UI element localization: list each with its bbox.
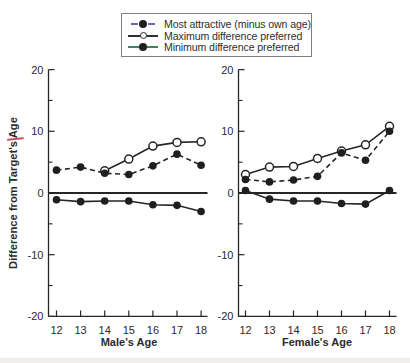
legend-label: Maximum difference preferred xyxy=(164,30,302,42)
dashed-line-filled-circle-swatch xyxy=(128,20,158,29)
dash-segment xyxy=(131,23,138,25)
female-age-panel: 20100-10-2012131415161718 xyxy=(218,64,397,336)
filled-circle-point xyxy=(101,169,109,177)
solid-line-filled-circle-swatch xyxy=(128,43,158,52)
y-tick-label: -20 xyxy=(28,310,44,322)
legend-label: Minimum difference preferred xyxy=(164,41,299,53)
filled-circle-point xyxy=(242,187,250,195)
y-tick-label: -20 xyxy=(218,310,234,322)
filled-circle-point xyxy=(125,197,133,205)
filled-circle-point xyxy=(77,198,85,206)
x-tick-label: 12 xyxy=(239,324,251,336)
x-tick-label: 13 xyxy=(74,324,86,336)
filled-circle-marker xyxy=(139,43,147,51)
filled-circle-point xyxy=(290,197,298,205)
x-tick-label: 18 xyxy=(383,324,395,336)
filled-circle-point xyxy=(314,173,322,181)
filled-circle-point xyxy=(197,208,205,216)
filled-circle-point xyxy=(314,197,322,205)
filled-circle-point xyxy=(266,178,274,186)
scan-artifact-band xyxy=(0,358,410,363)
open-circle-point xyxy=(125,155,133,163)
legend-label: Most attractive (minus own age) xyxy=(164,18,311,30)
open-circle-point xyxy=(314,154,322,162)
filled-circle-point xyxy=(53,196,61,204)
y-tick-label: -10 xyxy=(218,249,234,261)
x-tick-label: 18 xyxy=(195,324,207,336)
x-tick-label: 15 xyxy=(123,324,135,336)
y-tick-label: -10 xyxy=(28,249,44,261)
filled-circle-point xyxy=(149,201,157,209)
filled-circle-point xyxy=(53,166,61,174)
y-tick-label: 10 xyxy=(31,125,43,137)
filled-circle-point xyxy=(101,197,109,205)
open-circle-point xyxy=(173,138,181,146)
solid-line-open-circle-swatch xyxy=(128,31,158,40)
age-preference-figure: 20100-10-201213141516171820100-10-201213… xyxy=(0,0,410,363)
open-circle-point xyxy=(266,163,274,171)
open-circle-point xyxy=(149,142,157,150)
y-tick-label: 0 xyxy=(227,187,233,199)
x-tick-label: 14 xyxy=(99,324,111,336)
filled-circle-point xyxy=(362,200,370,208)
filled-circle-point xyxy=(338,200,346,208)
x-tick-label: 16 xyxy=(147,324,159,336)
open-circle-point xyxy=(197,138,205,146)
y-axis-label: Difference from Target's Age xyxy=(7,83,21,303)
filled-circle-point xyxy=(386,128,394,136)
x-tick-label: 15 xyxy=(311,324,323,336)
y-tick-label: 0 xyxy=(37,187,43,199)
legend-item-maximum-difference: Maximum difference preferred xyxy=(128,30,305,41)
filled-circle-point xyxy=(290,176,298,184)
filled-circle-point xyxy=(266,195,274,203)
x-tick-label: 13 xyxy=(263,324,275,336)
y-tick-label: 20 xyxy=(31,64,43,76)
x-axis-label-male: Male's Age xyxy=(49,336,209,348)
x-axis-label-female: Female's Age xyxy=(237,336,397,348)
x-tick-label: 17 xyxy=(171,324,183,336)
filled-circle-point xyxy=(197,161,205,169)
filled-circle-point xyxy=(125,171,133,179)
open-circle-marker xyxy=(140,32,147,39)
filled-circle-point xyxy=(362,156,370,164)
open-circle-point xyxy=(290,162,298,170)
filled-circle-point xyxy=(338,149,346,157)
filled-circle-marker xyxy=(139,20,147,28)
x-tick-label: 14 xyxy=(287,324,299,336)
dash-segment xyxy=(148,23,155,25)
y-tick-label: 10 xyxy=(221,125,233,137)
filled-circle-point xyxy=(149,162,157,170)
filled-circle-point xyxy=(173,150,181,158)
filled-circle-point xyxy=(77,163,85,171)
x-tick-label: 12 xyxy=(50,324,62,336)
filled-circle-point xyxy=(173,202,181,210)
x-tick-label: 17 xyxy=(359,324,371,336)
legend-box: Most attractive (minus own age) Maximum … xyxy=(121,13,312,57)
x-tick-label: 16 xyxy=(335,324,347,336)
y-tick-label: 20 xyxy=(221,64,233,76)
open-circle-point xyxy=(362,141,370,149)
legend-item-most-attractive: Most attractive (minus own age) xyxy=(128,19,305,30)
filled-circle-point xyxy=(386,187,394,195)
filled-circle-point xyxy=(242,176,250,184)
male-age-panel: 20100-10-2012131415161718 xyxy=(28,64,208,336)
legend-item-minimum-difference: Minimum difference preferred xyxy=(128,42,305,53)
